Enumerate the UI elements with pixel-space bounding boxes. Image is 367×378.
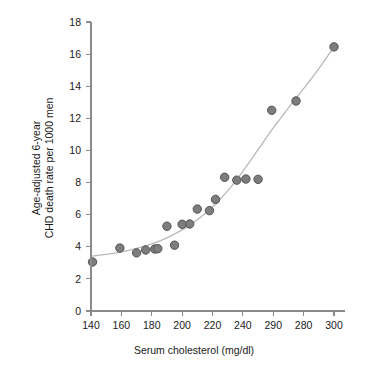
data-points-group (88, 43, 338, 267)
x-tick-label: 180 (143, 319, 161, 331)
fit-curve (91, 47, 334, 256)
data-point (220, 173, 228, 181)
data-point (211, 195, 219, 203)
data-point (170, 241, 178, 249)
data-point (242, 175, 250, 183)
data-point (330, 43, 338, 51)
y-tick-label: 12 (69, 112, 81, 124)
plot-area: 140160180200220240290280300 024681012141… (0, 0, 367, 378)
data-point (116, 244, 124, 252)
y-tick-label: 10 (69, 144, 81, 156)
x-tick-label: 240 (234, 319, 252, 331)
x-axis-title: Serum cholesterol (mg/dl) (134, 344, 254, 356)
x-tick-label: 140 (82, 319, 100, 331)
y-axis-title-line1: Age-adjusted 6-year (30, 120, 42, 215)
fit-curve-path (91, 47, 334, 256)
data-point (254, 175, 262, 183)
y-tick-label: 16 (69, 48, 81, 60)
y-axis-title-line2: CHD death rate per 1000 men (43, 98, 55, 239)
x-tick-label: 300 (325, 319, 343, 331)
data-point (141, 246, 149, 254)
x-tick-label: 160 (113, 319, 131, 331)
y-tick-label: 8 (75, 176, 81, 188)
y-tick-label: 4 (75, 240, 81, 252)
y-tick-label: 14 (69, 80, 81, 92)
data-point (154, 245, 162, 253)
y-axis-ticks: 024681012141618 (69, 16, 91, 317)
data-point (193, 205, 201, 213)
data-point (268, 106, 276, 114)
data-point (205, 206, 213, 214)
x-tick-label: 280 (295, 319, 313, 331)
data-point (186, 220, 194, 228)
y-tick-label: 2 (75, 273, 81, 285)
axes-group (91, 22, 345, 311)
x-tick-label: 290 (264, 319, 282, 331)
data-point (88, 258, 96, 266)
y-tick-label: 0 (75, 305, 81, 317)
y-tick-label: 6 (75, 208, 81, 220)
data-point (132, 249, 140, 257)
y-tick-label: 18 (69, 16, 81, 28)
data-point (163, 222, 171, 230)
chd-cholesterol-scatter-chart: 140160180200220240290280300 024681012141… (0, 0, 367, 378)
x-tick-label: 200 (173, 319, 191, 331)
data-point (292, 97, 300, 105)
x-tick-label: 220 (204, 319, 222, 331)
x-axis-ticks: 140160180200220240290280300 (82, 311, 343, 331)
data-point (233, 176, 241, 184)
